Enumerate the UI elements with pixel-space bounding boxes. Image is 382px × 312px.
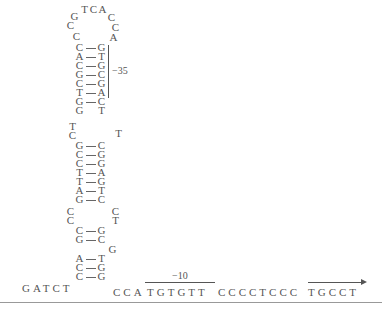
- base-pair-bond: [86, 277, 96, 278]
- bulge-nucleotide: T: [111, 215, 120, 226]
- loop-nucleotide: T: [80, 4, 89, 15]
- base-pair-bond: [86, 57, 96, 58]
- bulge-nucleotide: G: [108, 244, 117, 255]
- stem2-pair-right: C: [97, 194, 106, 205]
- transcript-start-sequence: TGCCT: [308, 287, 359, 298]
- spacer-sequence: CCA: [113, 287, 145, 298]
- base-pair-bond: [86, 66, 96, 67]
- minus35-label: −35: [112, 66, 128, 76]
- loop-nucleotide: A: [98, 4, 107, 15]
- bulge-nucleotide: C: [66, 215, 75, 226]
- base-pair-bond: [86, 268, 96, 269]
- base-pair-bond: [86, 259, 96, 260]
- minus10-box-sequence: TGTGTT: [147, 287, 208, 298]
- minus10-overline: [145, 282, 215, 283]
- loop-nucleotide: C: [89, 4, 98, 15]
- base-pair-bond: [86, 164, 96, 165]
- base-pair-bond: [86, 191, 96, 192]
- stem4-pair-left: C: [75, 271, 84, 282]
- base-pair-bond: [86, 48, 96, 49]
- stem2-pair-left: G: [75, 194, 84, 205]
- stem4-pair-right: G: [97, 271, 106, 282]
- middle-sequence: CCCCTCCC: [218, 287, 300, 298]
- bottom-divider: [0, 302, 382, 303]
- transcript-arrow-line: [308, 282, 363, 283]
- stem3-pair-left: G: [75, 234, 84, 245]
- stem1-unpaired-left: G: [75, 105, 84, 116]
- base-pair-bond: [86, 146, 96, 147]
- base-pair-bond: [86, 93, 96, 94]
- base-pair-bond: [86, 75, 96, 76]
- minus35-bracket: [108, 45, 109, 98]
- base-pair-bond: [86, 231, 96, 232]
- base-pair-bond: [86, 155, 96, 156]
- minus10-label: −10: [172, 271, 188, 281]
- base-pair-bond: [86, 182, 96, 183]
- base-pair-bond: [86, 102, 96, 103]
- base-pair-bond: [86, 200, 96, 201]
- left-flank-sequence: GATCT: [22, 283, 72, 294]
- base-pair-bond: [86, 173, 96, 174]
- loop-nucleotide: A: [109, 32, 118, 43]
- stem1-unpaired-right: T: [97, 105, 106, 116]
- transcript-arrow-head: [361, 279, 367, 285]
- base-pair-bond: [86, 84, 96, 85]
- stem3-pair-right: C: [97, 234, 106, 245]
- bulge-nucleotide: T: [114, 128, 123, 139]
- base-pair-bond: [86, 240, 96, 241]
